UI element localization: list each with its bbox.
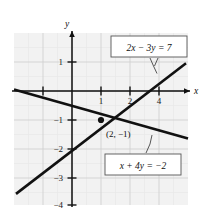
x-tick-label-1: 1 (99, 96, 104, 106)
coordinate-plane-svg: 2x − 3y = 7 x + 4y = −2 y x 1 2 4 1 −1 −… (0, 0, 204, 215)
x-tick-label-4: 4 (157, 96, 162, 106)
equation-box-1-text: 2x − 3y = 7 (126, 43, 172, 53)
y-tick-label-neg2: −2 (53, 144, 63, 154)
y-tick-label-neg1: −1 (53, 115, 63, 125)
equation-box-2-text: x + 4y = −2 (119, 161, 167, 171)
y-tick-label-neg3: −3 (53, 173, 63, 183)
graph-figure: 2x − 3y = 7 x + 4y = −2 y x 1 2 4 1 −1 −… (0, 0, 204, 215)
equation-box-1[interactable]: 2x − 3y = 7 (111, 36, 187, 57)
intersection-dot (98, 117, 104, 123)
y-axis-label: y (64, 19, 70, 29)
y-tick-label-neg4: −4 (53, 200, 63, 210)
y-tick-label-1: 1 (59, 57, 64, 67)
equation-box-2[interactable]: x + 4y = −2 (105, 154, 181, 175)
intersection-point-label: (2, −1) (106, 129, 131, 139)
x-tick-label-2: 2 (128, 96, 133, 106)
x-axis-label: x (193, 86, 199, 96)
